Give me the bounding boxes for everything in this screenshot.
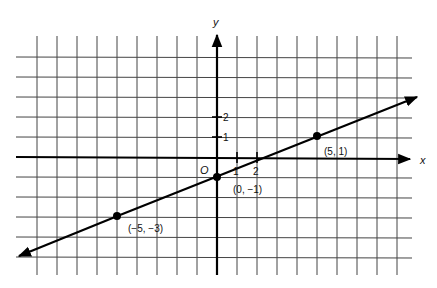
point-neg5-neg3 (113, 212, 121, 220)
x-tick-label-2: 2 (253, 166, 259, 177)
grid-line-horizontal (16, 77, 412, 78)
point-label-5-1: (5, 1) (324, 146, 347, 157)
x-axis-label: x (419, 154, 426, 166)
grid-line-horizontal (16, 237, 412, 238)
grid (16, 36, 412, 275)
grid-line-horizontal (16, 97, 412, 98)
grid-line-horizontal (16, 217, 412, 218)
grid-line-horizontal (16, 57, 412, 58)
point-5-1 (313, 132, 321, 140)
grid-line-horizontal (16, 257, 412, 258)
origin-label: O (200, 164, 209, 176)
point-label-neg5-neg3: (−5, −3) (128, 223, 163, 234)
y-tick-label-1: 1 (223, 132, 229, 143)
grid-line-horizontal (16, 197, 412, 198)
coordinate-plane: x y O 1 2 1 2 (5, 1) (0, −1) (−5, −3) (0, 0, 437, 288)
y-tick-label-2: 2 (223, 112, 229, 123)
axis-ticks (212, 117, 257, 163)
y-axis-label: y (212, 16, 220, 28)
plotted-line-left-arrow (19, 215, 120, 256)
point-label-0-neg1: (0, −1) (233, 184, 262, 195)
point-0-neg1 (213, 173, 221, 181)
x-axis (16, 157, 410, 159)
